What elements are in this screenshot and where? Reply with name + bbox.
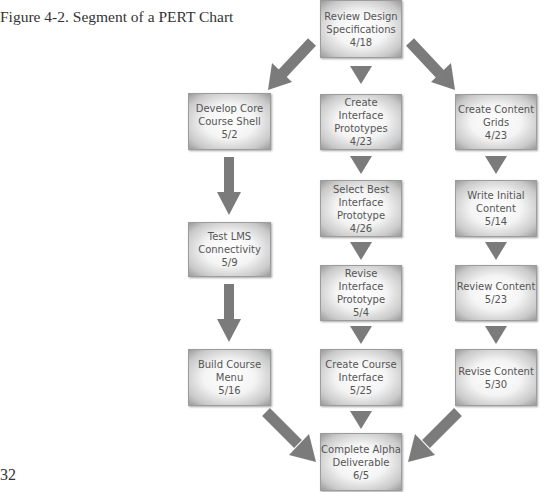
node-label: Connectivity (198, 243, 261, 256)
node-revise-interface: Revise Interface Prototype 5/4 (320, 265, 402, 321)
node-label: Test LMS (208, 230, 251, 243)
node-complete-alpha: Complete Alpha Deliverable 6/5 (320, 433, 402, 491)
node-review-design: Review Design Specifications 4/18 (320, 0, 402, 58)
node-label: Build Course (198, 358, 261, 371)
node-label: Course Shell (198, 115, 261, 128)
arrow-review-to-develop (268, 42, 312, 90)
node-date: 5/16 (218, 384, 240, 397)
node-label: Select Best (333, 183, 389, 196)
arrow-create-course-to-alpha (350, 411, 372, 429)
arrow-revise-content-to-alpha (408, 412, 458, 462)
node-label: Prototypes (334, 122, 387, 135)
node-label: Create Interface (321, 96, 401, 122)
node-label: Interface (339, 371, 384, 384)
node-label: Review Content (457, 280, 536, 293)
arrow-grids-to-write (485, 156, 507, 174)
node-create-content-grids: Create Content Grids 4/23 (455, 94, 537, 150)
node-date: 5/4 (353, 306, 369, 319)
node-review-content: Review Content 5/23 (455, 265, 537, 321)
node-create-course-interface: Create Course Interface 5/25 (320, 349, 402, 406)
arrow-write-to-review-content (485, 242, 507, 260)
node-date: 5/25 (350, 384, 372, 397)
node-label: Deliverable (333, 456, 390, 469)
arrow-prototypes-to-select (350, 156, 372, 174)
node-build-menu: Build Course Menu 5/16 (188, 349, 271, 406)
node-label: Prototype (337, 293, 385, 306)
node-revise-content: Revise Content 5/30 (455, 349, 537, 406)
node-date: 4/26 (350, 222, 372, 235)
arrow-review-to-content-grids (410, 42, 455, 90)
node-write-initial: Write Initial Content 5/14 (455, 180, 537, 237)
node-label: Review Design (324, 10, 397, 23)
node-label: Specifications (326, 23, 395, 36)
node-label: Create Course (325, 358, 396, 371)
node-select-best: Select Best Interface Prototype 4/26 (320, 180, 402, 237)
node-date: 5/23 (485, 293, 507, 306)
node-create-interface-prototypes: Create Interface Prototypes 4/23 (320, 94, 402, 150)
node-label: Write Initial (467, 189, 524, 202)
node-label: Interface (339, 196, 384, 209)
arrow-develop-to-test (217, 157, 241, 215)
node-label: Content (476, 202, 516, 215)
arrow-review-to-revise-content (485, 326, 507, 344)
node-label: Menu (216, 371, 243, 384)
node-label: Complete Alpha (321, 443, 401, 456)
node-label: Revise Content (458, 365, 534, 378)
node-label: Create Content (458, 103, 534, 116)
node-label: Prototype (337, 209, 385, 222)
node-date: 4/18 (350, 36, 372, 49)
page-number: 32 (0, 466, 16, 484)
node-date: 5/2 (221, 128, 237, 141)
arrow-build-menu-to-alpha (266, 412, 316, 462)
node-date: 5/9 (221, 256, 237, 269)
arrows-layer (0, 0, 548, 492)
node-label: Grids (483, 116, 509, 129)
arrow-revise-to-create-course (350, 326, 372, 344)
node-label: Revise Interface (321, 267, 401, 293)
arrow-review-to-prototypes (350, 66, 372, 84)
arrow-select-to-revise (350, 242, 372, 260)
arrow-test-to-build (217, 284, 241, 342)
node-label: Develop Core (196, 102, 264, 115)
node-develop-core: Develop Core Course Shell 5/2 (188, 93, 271, 150)
node-test-lms: Test LMS Connectivity 5/9 (188, 222, 271, 277)
node-date: 4/23 (485, 129, 507, 142)
node-date: 5/14 (485, 215, 507, 228)
node-date: 4/23 (350, 135, 372, 148)
node-date: 6/5 (353, 469, 369, 482)
node-date: 5/30 (485, 378, 507, 391)
